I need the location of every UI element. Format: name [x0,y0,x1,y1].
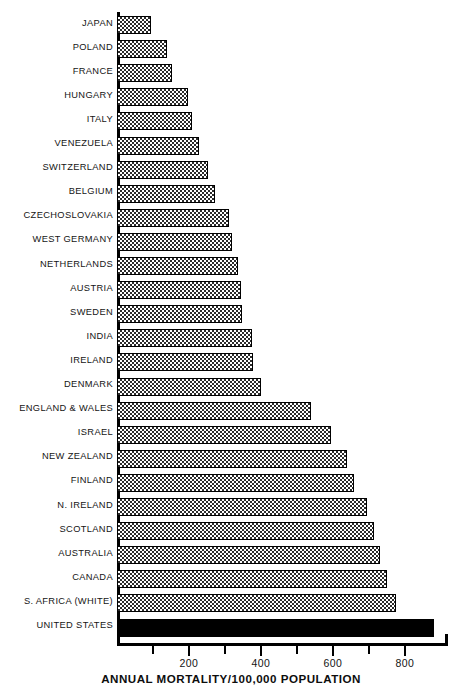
bar-czechoslovakia [117,209,229,227]
x-axis-tick-label: 600 [323,657,342,669]
category-label: S. AFRICA (WHITE) [0,596,113,607]
value-axis-endcap-right [445,634,448,646]
value-axis-endcap-left [117,634,120,646]
category-label: BELGIUM [0,186,113,197]
plot-area: 200400600800 [117,12,448,646]
bar-italy [117,112,192,130]
category-label: UNITED STATES [0,620,113,631]
bar-denmark [117,378,261,396]
bar-west-germany [117,233,232,251]
bar-japan [117,16,151,34]
category-label: AUSTRALIA [0,548,113,559]
x-axis-minor-tick [152,646,154,654]
category-label: CZECHOSLOVAKIA [0,210,113,221]
x-axis-tick-label: 800 [395,657,414,669]
category-label: HUNGARY [0,90,113,101]
category-label: DENMARK [0,379,113,390]
category-axis-labels: JAPANPOLANDFRANCEHUNGARYITALYVENEZUELASW… [0,12,113,646]
bar-series [117,12,448,640]
category-label: ISRAEL [0,427,113,438]
bar-israel [117,426,331,444]
bar-chart: JAPANPOLANDFRANCEHUNGARYITALYVENEZUELASW… [0,0,462,696]
bar-belgium [117,185,215,203]
category-label: SWITZERLAND [0,162,113,173]
x-axis-major-tick [188,646,190,656]
x-axis-major-tick [260,646,262,656]
x-axis-major-tick [404,646,406,656]
x-axis-minor-tick [368,646,370,654]
category-label: FRANCE [0,66,113,77]
category-label: CANADA [0,572,113,583]
x-axis-tick-label: 400 [252,657,271,669]
bar-switzerland [117,161,208,179]
bar-australia [117,546,380,564]
bar-s-africa-white [117,594,396,612]
value-axis-line [117,643,448,646]
category-label: N. IRELAND [0,500,113,511]
bar-sweden [117,305,242,323]
category-label: ITALY [0,114,113,125]
category-label: VENEZUELA [0,138,113,149]
category-label: POLAND [0,42,113,53]
bar-netherlands [117,257,238,275]
category-label: SCOTLAND [0,524,113,535]
bar-ireland [117,353,253,371]
x-axis-minor-tick [224,646,226,654]
category-label: SWEDEN [0,307,113,318]
category-label: NEW ZEALAND [0,451,113,462]
category-label: WEST GERMANY [0,234,113,245]
category-label: AUSTRIA [0,283,113,294]
category-label: ENGLAND & WALES [0,403,113,414]
category-label: NETHERLANDS [0,259,113,270]
bar-france [117,64,172,82]
bar-united-states [117,619,434,637]
category-label: JAPAN [0,18,113,29]
bar-n-ireland [117,498,367,516]
bar-austria [117,281,241,299]
x-axis-title: ANNUAL MORTALITY/100,000 POPULATION [0,672,462,685]
category-label: FINLAND [0,475,113,486]
x-axis-tick-label: 200 [180,657,199,669]
bar-new-zealand [117,450,347,468]
category-label: IRELAND [0,355,113,366]
bar-poland [117,40,167,58]
category-label: INDIA [0,331,113,342]
bar-england-wales [117,402,311,420]
bar-hungary [117,88,188,106]
bar-scotland [117,522,374,540]
x-axis-minor-tick [296,646,298,654]
bar-india [117,329,252,347]
x-axis-major-tick [332,646,334,656]
bar-venezuela [117,137,199,155]
bar-finland [117,474,354,492]
bar-canada [117,570,387,588]
